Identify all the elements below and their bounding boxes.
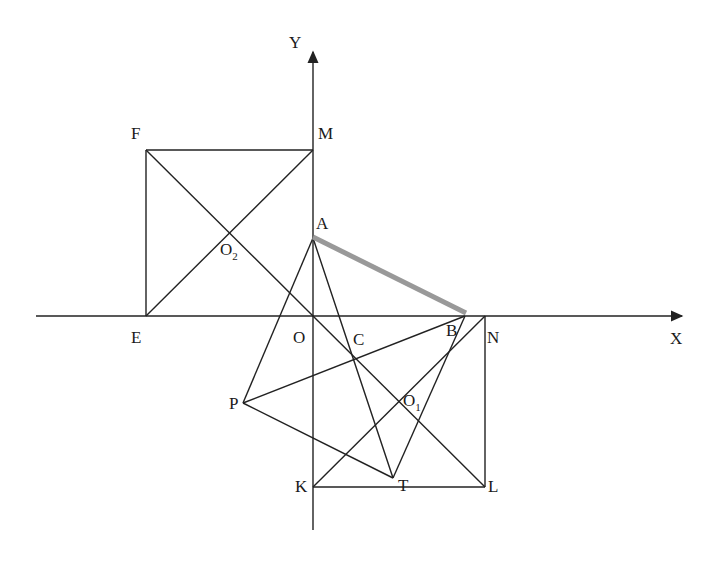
label-L: L bbox=[488, 477, 498, 496]
label-C: C bbox=[353, 330, 364, 349]
label-T: T bbox=[398, 476, 409, 495]
label-P: P bbox=[229, 394, 238, 413]
segment-AB-highlighted bbox=[313, 237, 466, 313]
segment-AT bbox=[313, 238, 393, 478]
label-M: M bbox=[318, 124, 333, 143]
label-E: E bbox=[131, 328, 141, 347]
segment-PT bbox=[243, 403, 393, 478]
geometry-diagram: Y X F M A O2 E O C B N P O1 K T L bbox=[0, 0, 707, 561]
label-Y: Y bbox=[289, 33, 301, 52]
label-A: A bbox=[316, 214, 329, 233]
label-N: N bbox=[487, 328, 499, 347]
label-X: X bbox=[670, 329, 682, 348]
label-O1: O1 bbox=[403, 391, 421, 413]
label-O2: O2 bbox=[220, 240, 238, 262]
label-O: O bbox=[293, 328, 305, 347]
label-B: B bbox=[446, 321, 457, 340]
segment-AP bbox=[243, 238, 313, 403]
label-K: K bbox=[295, 477, 308, 496]
label-F: F bbox=[131, 124, 140, 143]
